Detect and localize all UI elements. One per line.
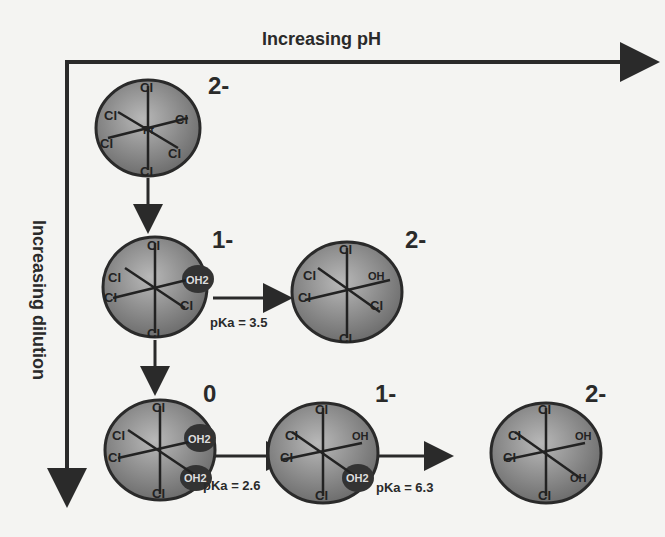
svg-text:Cl: Cl: [315, 402, 328, 417]
charge-label: 0: [203, 380, 216, 408]
svg-text:Cl: Cl: [339, 331, 352, 346]
charge-label: 1-: [212, 226, 233, 254]
svg-text:Cl: Cl: [370, 298, 383, 313]
svg-text:Cl: Cl: [152, 400, 165, 415]
svg-text:Cl: Cl: [538, 402, 551, 417]
svg-text:Cl: Cl: [168, 146, 181, 161]
svg-text:Cl: Cl: [175, 112, 188, 127]
svg-text:Cl: Cl: [104, 108, 117, 123]
svg-text:Cl: Cl: [285, 428, 298, 443]
pka-label: pKa = 2.6: [203, 478, 260, 493]
svg-text:Cl: Cl: [108, 270, 121, 285]
svg-text:OH2: OH2: [186, 274, 209, 286]
svg-text:OH: OH: [575, 430, 592, 442]
svg-text:Cl: Cl: [503, 450, 516, 465]
svg-text:Cl: Cl: [315, 488, 328, 503]
svg-text:OH: OH: [570, 472, 587, 484]
svg-text:OH2: OH2: [188, 433, 211, 445]
svg-text:Cl: Cl: [280, 450, 293, 465]
svg-text:OH: OH: [352, 430, 369, 442]
svg-text:Cl: Cl: [100, 136, 113, 151]
svg-text:Cl: Cl: [508, 428, 521, 443]
svg-text:Cl: Cl: [303, 268, 316, 283]
svg-text:Cl: Cl: [108, 450, 121, 465]
charge-label: 2-: [405, 226, 426, 254]
svg-text:Cl: Cl: [339, 242, 352, 257]
speciation-diagram: ClClClClClClPt ClClClClClOH2 ClClClClClO…: [0, 0, 665, 537]
svg-text:OH2: OH2: [346, 472, 369, 484]
svg-text:Pt: Pt: [143, 124, 154, 136]
svg-text:Cl: Cl: [104, 290, 117, 305]
svg-text:Cl: Cl: [140, 164, 153, 179]
svg-text:Cl: Cl: [140, 80, 153, 95]
svg-text:OH: OH: [368, 270, 385, 282]
charge-label: 2-: [208, 72, 229, 100]
svg-text:Cl: Cl: [147, 326, 160, 341]
charge-label: 2-: [585, 380, 606, 408]
pka-label: pKa = 3.5: [210, 315, 267, 330]
svg-text:Cl: Cl: [112, 428, 125, 443]
svg-text:Cl: Cl: [538, 488, 551, 503]
svg-text:Cl: Cl: [180, 298, 193, 313]
svg-text:Cl: Cl: [152, 486, 165, 501]
pka-label: pKa = 6.3: [376, 480, 433, 495]
svg-text:Cl: Cl: [147, 238, 160, 253]
svg-text:Cl: Cl: [298, 290, 311, 305]
charge-label: 1-: [375, 380, 396, 408]
